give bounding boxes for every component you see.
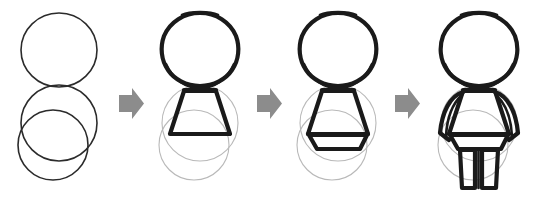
step-1-drawing — [0, 0, 116, 199]
chest-circle — [21, 85, 97, 161]
arrow-glyph — [119, 88, 144, 119]
right-leg — [482, 150, 498, 188]
right-arrow-icon — [116, 0, 146, 199]
right-arrow-icon — [392, 0, 422, 199]
step-4-drawing — [422, 0, 536, 199]
arrow-glyph — [257, 88, 282, 119]
pelvis — [309, 135, 367, 149]
figure-tutorial-canvas — [0, 0, 536, 199]
step-panel-2 — [146, 0, 254, 199]
torso-trapezoid — [170, 91, 230, 134]
left-leg — [460, 150, 475, 188]
right-arrow-icon — [254, 0, 284, 199]
head-circle — [21, 13, 97, 87]
step-panel-1 — [0, 0, 116, 199]
step-2-drawing — [146, 0, 254, 199]
step-3-drawing — [284, 0, 392, 199]
arrow-step3-to-step4 — [392, 0, 422, 199]
step-panel-3 — [284, 0, 392, 199]
step-panel-4 — [422, 0, 536, 199]
arrow-step2-to-step3 — [254, 0, 284, 199]
pelvis — [450, 135, 508, 149]
arrow-glyph — [395, 88, 420, 119]
torso-trapezoid — [308, 91, 368, 134]
arrow-step1-to-step2 — [116, 0, 146, 199]
